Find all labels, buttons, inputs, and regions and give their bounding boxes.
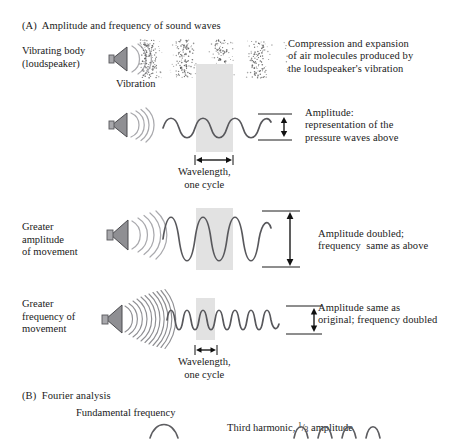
wavelength-measure-row4 (194, 344, 220, 356)
wavelength-label-row4: Wavelength, one cycle (178, 356, 231, 381)
third-harmonic-text-before: Third harmonic, (227, 422, 298, 433)
wavelength-measure-row2 (194, 154, 236, 166)
third-harmonic-waveform-partial (292, 420, 402, 440)
fundamental-waveform-partial (148, 420, 208, 440)
row-greater-frequency-right-text: Amplitude same as original; frequency do… (318, 302, 437, 327)
amplitude-marker-row2 (258, 110, 300, 144)
row-pressure-wave-left-label: Vibrating body (loudspeaker) (22, 45, 85, 70)
row-greater-amplitude-right-text: Amplitude doubled; frequency same as abo… (318, 228, 428, 253)
row-pressure-wave-under-label: Vibration (116, 78, 156, 91)
panel-b-title: (B) Fourier analysis (22, 390, 111, 401)
wavelength-label-row2: Wavelength, one cycle (178, 166, 231, 191)
loudspeaker-icon-row4 (100, 291, 176, 347)
row-greater-amplitude-left-label: Greater amplitude of movement (22, 221, 78, 259)
row-pressure-wave-right-text: Compression and expansion of air molecul… (288, 38, 413, 75)
waveform-double-frequency (166, 298, 292, 342)
loudspeaker-icon-row2 (108, 108, 164, 142)
row-baseline-right-text: Amplitude: representation of the pressur… (305, 107, 399, 144)
fundamental-frequency-caption: Fundamental frequency (76, 407, 175, 420)
panel-a-title: (A) Amplitude and frequency of sound wav… (22, 20, 221, 31)
amplitude-marker-row3 (262, 208, 310, 270)
row-greater-frequency-left-label: Greater frequency of movement (22, 298, 75, 336)
